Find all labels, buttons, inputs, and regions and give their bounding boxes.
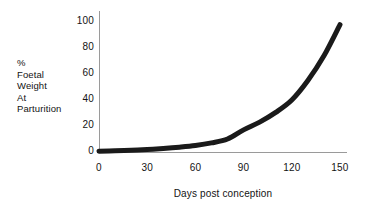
growth-curve [99, 25, 340, 152]
x-tick-label: 120 [272, 162, 312, 173]
x-tick-label: 90 [224, 162, 264, 173]
x-tick-label: 150 [320, 162, 360, 173]
x-tick-label: 30 [127, 162, 167, 173]
x-tick-label: 60 [175, 162, 215, 173]
x-axis-title: Days post conception [99, 188, 347, 199]
chart-page: % Foetal Weight At Parturition 100 80 60… [0, 0, 372, 212]
x-tick-label: 0 [79, 162, 119, 173]
plot-area [0, 0, 372, 212]
